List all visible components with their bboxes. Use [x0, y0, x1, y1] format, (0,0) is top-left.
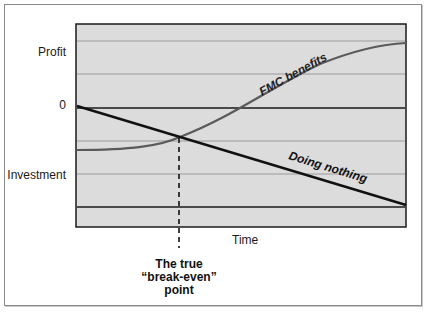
x-axis-label: Time — [232, 233, 258, 247]
y-label-investment: Investment — [6, 168, 66, 182]
y-label-profit: Profit — [29, 45, 66, 59]
y-label-zero: 0 — [55, 98, 66, 112]
breakeven-line-3: point — [134, 284, 224, 297]
breakeven-annotation: The true “break-even” point — [134, 258, 224, 297]
plot-area — [76, 24, 406, 227]
